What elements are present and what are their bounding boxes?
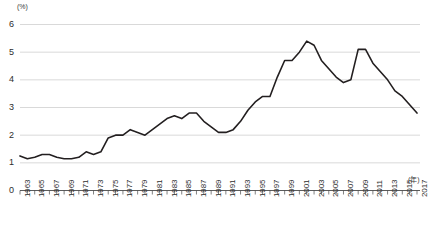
x-tick-label: 2003	[318, 179, 326, 196]
x-tick-label: 2005	[332, 179, 340, 196]
x-tick-label: 1965	[38, 179, 46, 196]
y-tick-label: 3	[2, 103, 14, 112]
x-tick-label: 1967	[53, 179, 61, 196]
x-tick-label: 1987	[200, 179, 208, 196]
x-tick-label: 1981	[156, 179, 164, 196]
x-tick-label: 1969	[68, 179, 76, 196]
x-tick-label: 2001	[303, 179, 311, 196]
x-tick-label: 2011	[376, 180, 384, 197]
x-tick-label: 1995	[259, 179, 267, 196]
y-tick-label: 0	[2, 186, 14, 195]
x-tick-label: 2017	[421, 179, 429, 196]
x-tick-label: 1989	[215, 179, 223, 196]
x-tick-label: 1985	[185, 179, 193, 196]
x-tick-label: 1971	[82, 179, 90, 196]
x-tick-label: 1979	[141, 179, 149, 196]
y-tick-label: 1	[2, 158, 14, 167]
y-tick-label: 6	[2, 20, 14, 29]
x-tick-label: 1993	[244, 179, 252, 196]
x-tick-label: 1975	[112, 179, 120, 196]
x-tick-label: 1973	[97, 179, 105, 196]
x-tick-label: 2015	[406, 179, 414, 196]
x-tick-label: 1999	[288, 179, 296, 196]
x-tick-label: 1977	[126, 179, 134, 196]
x-tick-label: 2007	[347, 179, 355, 196]
unemployment-rate-line-chart: (%) (年) 0123456 196319651967196919711973…	[0, 0, 437, 226]
x-tick-label: 1983	[171, 179, 179, 196]
unemployment-rate-series	[20, 41, 417, 159]
x-tick-label: 2009	[362, 179, 370, 196]
y-tick-label: 4	[2, 75, 14, 84]
y-tick-label: 5	[2, 48, 14, 57]
x-tick-label: 1997	[273, 179, 281, 196]
y-tick-label: 2	[2, 131, 14, 140]
x-tick-label: 1991	[229, 179, 237, 196]
x-tick-label: 2013	[391, 179, 399, 196]
x-tick-label: 1963	[24, 179, 32, 196]
